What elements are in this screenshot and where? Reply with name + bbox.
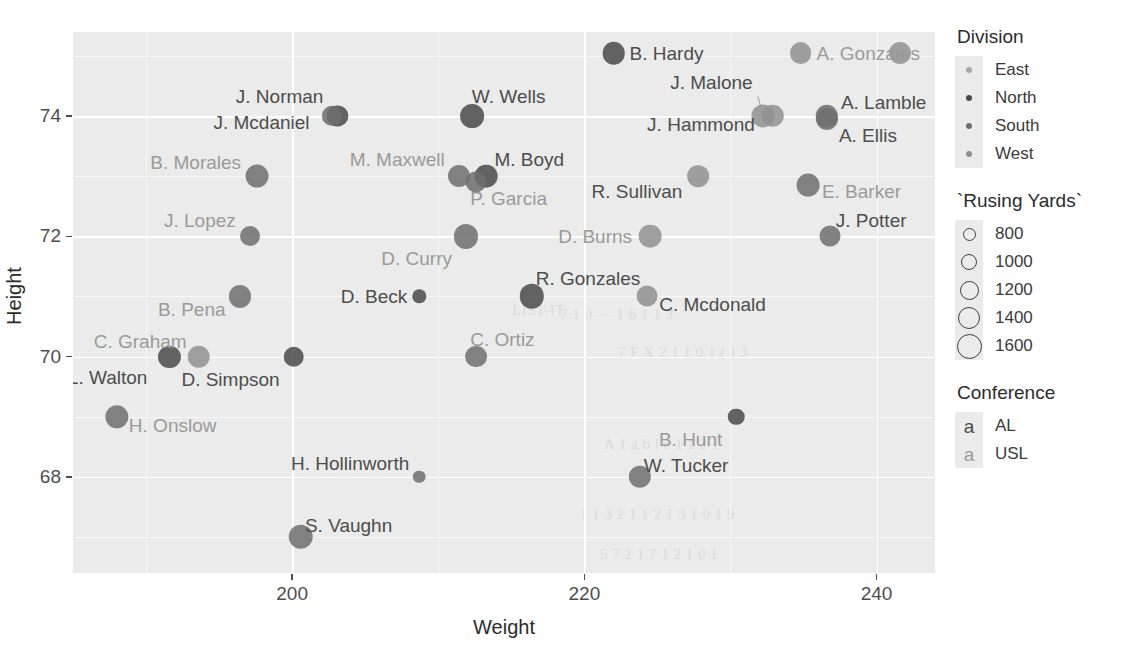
legend-item-rushing-yards-1400[interactable]: 1400 <box>955 304 1121 332</box>
legend-key <box>955 332 983 360</box>
point-label: A. Lamble <box>841 93 927 112</box>
point-label: B. Hunt <box>659 429 722 448</box>
point-label: B. Morales <box>150 153 241 172</box>
rushing-yards-size-ring-icon <box>957 334 982 359</box>
data-point <box>762 105 784 127</box>
legend-conference: Conference aALaUSL <box>955 382 1121 468</box>
point-label: J. Norman <box>236 87 324 106</box>
legend-item-rushing-yards-1600[interactable]: 1600 <box>955 332 1121 360</box>
point-label: R. Gonzales <box>536 269 641 288</box>
rushing-yards-size-ring-icon <box>963 228 976 241</box>
legend-conference-title: Conference <box>957 382 1121 404</box>
rushing-yards-size-ring-icon <box>958 307 980 329</box>
legend-key <box>955 56 983 84</box>
data-point <box>796 174 819 197</box>
legend-item-label: 1000 <box>995 252 1033 272</box>
gridline <box>584 32 586 573</box>
y-axis-tick-label: 70 <box>40 346 61 368</box>
point-label: W. Wells <box>472 87 546 106</box>
legend-rushing-yards: `Rusing Yards` 8001000120014001600 <box>955 190 1121 360</box>
point-label: A. Ellis <box>839 126 897 145</box>
gridline <box>73 236 935 238</box>
legend-item-conference-al[interactable]: aAL <box>955 412 1121 440</box>
point-label: C. Mcdonald <box>659 295 766 314</box>
legend-division-items: EastNorthSouthWest <box>955 56 1121 168</box>
point-label: J. Potter <box>836 211 907 230</box>
data-point <box>816 108 838 130</box>
legend-key: a <box>955 412 983 440</box>
plot-panel: LIST-IT7 1 0 — 1 6 1 1 37 F X 2 1 1 0 1 … <box>73 32 935 573</box>
legend-item-rushing-yards-1200[interactable]: 1200 <box>955 276 1121 304</box>
legend-item-division-east[interactable]: East <box>955 56 1121 84</box>
legend-division-title: Division <box>957 26 1121 48</box>
point-label: J. Lopez <box>164 211 236 230</box>
gridline <box>877 32 879 573</box>
y-axis-tick-label: 74 <box>40 105 61 127</box>
gridline <box>73 296 935 297</box>
data-point <box>105 405 128 428</box>
legend-column: Division EastNorthSouthWest `Rusing Yard… <box>955 26 1121 490</box>
legend-key <box>955 140 983 168</box>
legend-item-label: North <box>995 88 1037 108</box>
x-axis-tick-label: 240 <box>861 583 893 605</box>
data-point <box>246 165 269 188</box>
point-label: M. Maxwell <box>350 150 445 169</box>
gridline <box>73 116 935 118</box>
point-label: B. Hardy <box>630 44 704 63</box>
x-axis-tick <box>291 574 292 580</box>
legend-item-label: South <box>995 116 1039 136</box>
data-point <box>637 286 658 307</box>
rushing-yards-size-ring-icon <box>961 254 977 270</box>
conference-text-glyph-icon: a <box>964 445 975 464</box>
legend-rushing-yards-title: `Rusing Yards` <box>957 190 1121 212</box>
legend-item-rushing-yards-800[interactable]: 800 <box>955 220 1121 248</box>
gridline <box>146 32 147 573</box>
legend-item-label: 800 <box>995 224 1023 244</box>
gridline <box>73 477 935 479</box>
gridline <box>73 537 935 538</box>
y-axis-tick-label: 72 <box>40 225 61 247</box>
legend-conference-items: aALaUSL <box>955 412 1121 468</box>
point-label: D. Curry <box>381 249 452 268</box>
x-axis-tick <box>876 574 877 580</box>
data-point <box>229 285 251 307</box>
legend-item-division-west[interactable]: West <box>955 140 1121 168</box>
point-label: D. Beck <box>341 287 408 306</box>
legend-key <box>955 248 983 276</box>
point-label: M. Boyd <box>494 150 564 169</box>
legend-item-conference-usl[interactable]: aUSL <box>955 440 1121 468</box>
x-axis-title: Weight <box>473 616 535 639</box>
point-label: R. Sullivan <box>591 182 682 201</box>
y-axis-title: Height <box>3 267 26 325</box>
scan-artifact-text: 1 1 3 2 1 1 2 1 3 1 0 1 9 <box>580 506 735 523</box>
legend-rushing-yards-items: 8001000120014001600 <box>955 220 1121 360</box>
data-point <box>687 165 709 187</box>
data-point <box>283 346 304 367</box>
point-label: W. Tucker <box>644 455 728 474</box>
legend-key <box>955 84 983 112</box>
legend-division: Division EastNorthSouthWest <box>955 26 1121 168</box>
point-label: D. Burns <box>558 227 632 246</box>
division-color-swatch-icon <box>966 151 972 157</box>
point-label: J. Mcdaniel <box>213 113 309 132</box>
data-point <box>602 42 625 65</box>
data-point <box>240 226 260 246</box>
data-point <box>460 104 484 128</box>
legend-item-division-north[interactable]: North <box>955 84 1121 112</box>
legend-item-label: West <box>995 144 1033 164</box>
point-label: H. Hollinworth <box>291 453 409 472</box>
legend-key <box>955 220 983 248</box>
division-color-swatch-icon <box>966 67 972 73</box>
legend-item-division-south[interactable]: South <box>955 112 1121 140</box>
legend-key: a <box>955 440 983 468</box>
legend-item-rushing-yards-1000[interactable]: 1000 <box>955 248 1121 276</box>
legend-item-label: 1200 <box>995 280 1033 300</box>
legend-item-label: 1600 <box>995 336 1033 356</box>
legend-key <box>955 304 983 332</box>
point-label: C. Graham <box>94 331 187 350</box>
x-axis-tick <box>584 574 585 580</box>
y-axis-tick <box>66 476 72 477</box>
x-axis-tick-label: 220 <box>568 583 600 605</box>
point-label: P. Garcia <box>470 189 547 208</box>
legend-item-label: East <box>995 60 1029 80</box>
